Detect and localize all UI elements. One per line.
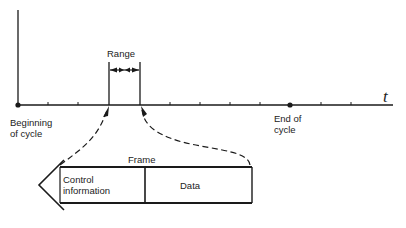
beginning-of-cycle-label: Beginning of cycle (10, 117, 52, 139)
dashed-arrow-right (142, 110, 250, 165)
control-information-label: Control information (63, 174, 110, 196)
end-of-cycle-label: End of cycle (274, 113, 301, 135)
frame-label: Frame (128, 154, 155, 165)
arrowhead-left (103, 106, 109, 117)
timeline-diagram (0, 0, 406, 228)
dashed-arrow-left (60, 108, 108, 165)
beginning-of-cycle-marker (15, 102, 20, 107)
data-label: Data (180, 180, 200, 191)
end-of-cycle-marker (287, 102, 292, 107)
range-bracket (109, 62, 140, 105)
range-label: Range (107, 48, 135, 59)
time-axis-label: t (383, 87, 388, 107)
